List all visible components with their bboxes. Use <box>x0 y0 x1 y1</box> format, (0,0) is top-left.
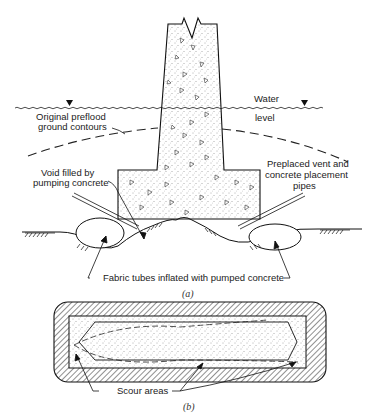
void-label-line2: pumping concrete <box>33 177 109 188</box>
existing-ground-line <box>22 218 362 249</box>
level-label: level <box>255 112 275 123</box>
water-level-triangle-icon <box>301 100 308 106</box>
water-label: Water <box>254 93 279 104</box>
figure-diagram: Water level Original preflood ground con… <box>0 0 378 416</box>
caption-b: (b) <box>183 401 195 413</box>
scour-areas-label: Scour areas <box>117 385 168 396</box>
pier-and-footing <box>118 18 260 219</box>
caption-a: (a) <box>182 288 194 300</box>
pipes-label-line1: Preplaced vent and <box>267 158 349 169</box>
fabric-tubes-label: Fabric tubes inflated with pumped concre… <box>103 272 284 283</box>
pipes-label-line3: pipes <box>293 180 316 191</box>
pipes-label-line2: concrete placement <box>265 169 348 180</box>
preflood-label-line2: ground contours <box>38 121 107 132</box>
preflood-ground-contour-left <box>28 128 158 156</box>
part-b-plan: Scour areas (b) <box>54 302 326 413</box>
water-level-triangle-icon <box>66 100 73 106</box>
part-a-elevation: Water level Original preflood ground con… <box>15 18 362 300</box>
fabric-tube-left <box>76 218 124 248</box>
